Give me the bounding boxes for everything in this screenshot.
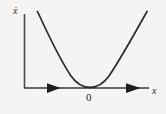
origin-tick-label: 0 bbox=[86, 92, 92, 103]
plot-canvas bbox=[0, 0, 166, 114]
x-axis-label: x bbox=[152, 86, 156, 96]
parabola-curve bbox=[38, 12, 148, 88]
parabola-figure: ẋ x 0 bbox=[0, 0, 166, 114]
x-axis-arrowhead-left-icon bbox=[47, 83, 61, 93]
y-axis-label: ẋ bbox=[13, 6, 17, 16]
x-axis-arrowhead-right-icon bbox=[126, 83, 141, 93]
